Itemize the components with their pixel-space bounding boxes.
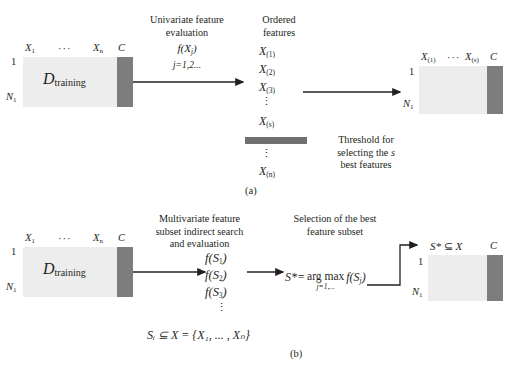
panel-a-output-matrix [419, 66, 503, 114]
panel-label-text: (b) [290, 348, 302, 359]
panel-a-output-row-last: N1 [403, 98, 414, 111]
caption-line-1: Selection of the best [272, 213, 398, 226]
eval-close: ) [222, 268, 226, 282]
panel-a-output-col-class: C [490, 51, 497, 62]
panel-a-col-label-last: Xn [93, 42, 103, 55]
eval-base: f(S [205, 285, 219, 299]
threshold-line-1: Threshold for [312, 134, 420, 147]
col-last-sub: (s) [471, 56, 478, 64]
ordered-vdots-lower: ⋮ [259, 150, 273, 157]
panel-b-col-label-dots: ··· [58, 233, 72, 244]
threshold-line-3: best features [312, 159, 420, 172]
argmax-lhs: S*= [285, 270, 305, 284]
panel-b-label: (b) [290, 348, 302, 359]
row-last-base: N [403, 98, 410, 109]
matrix-body [419, 66, 487, 114]
matrix-body [428, 255, 487, 301]
row-last-sub: 1 [410, 103, 414, 111]
argmax-rhs: f(Sj) [346, 270, 365, 288]
col-last-sub: n [99, 47, 103, 55]
ordered-feature-2: X(2) [259, 62, 275, 77]
feature-sub: (s) [266, 120, 274, 129]
feature-sub: (2) [266, 68, 275, 77]
matrix-class-column [117, 247, 133, 297]
feature-sub: (1) [266, 50, 275, 59]
panel-a-col-label-first: X1 [25, 42, 35, 55]
vdots-glyph: ⋮ [261, 95, 272, 107]
feature-sub: (n) [266, 170, 275, 179]
panel-a-col-label-class: C [118, 42, 125, 53]
row-last-base: N [6, 91, 13, 102]
subset-definition: Sᵢ ⊆ X = {X₁, ... , Xₙ} [147, 328, 250, 343]
output-label-subset: ⊆ [444, 240, 453, 252]
arrow-b-3 [367, 245, 417, 285]
ordered-feature-3: X(3) [259, 80, 275, 95]
ordered-line-1: Ordered [243, 14, 315, 27]
row-last-sub: 1 [13, 286, 17, 294]
panel-label-text: (a) [245, 185, 257, 196]
formula-close: ) [193, 42, 197, 54]
row-first: 1 [418, 256, 423, 267]
panel-a-label: (a) [245, 185, 257, 196]
ordered-line-2: features [243, 27, 315, 40]
panel-b-output-col-label: S* ⊆ X [430, 240, 462, 253]
panel-b-col-label-class: C [118, 232, 125, 243]
panel-b-output-col-class: C [490, 240, 497, 251]
eval-close: ) [222, 251, 226, 265]
ordered-vdots-upper: ⋮ [259, 98, 273, 105]
col-first-sub: 1 [31, 47, 35, 55]
dataset-symbol: D [43, 70, 55, 87]
eval-base: f(S [205, 268, 219, 282]
caption-line-2: evaluation [131, 27, 243, 40]
panel-a-output-row-first: 1 [409, 66, 414, 77]
panel-b-col-label-last: Xn [93, 232, 103, 245]
dataset-symbol: D [43, 260, 55, 277]
ordered-feature-s: X(s) [259, 114, 274, 129]
dataset-subscript: training [55, 77, 86, 88]
panel-a-output-col-dots: ··· [447, 52, 461, 63]
output-label-x: X [456, 240, 463, 252]
subset-eval-3: f(S3) [205, 285, 227, 300]
formula-base: f(X [177, 42, 190, 54]
threshold-line-2-italic: s [391, 147, 395, 158]
figure-canvas: Dtraining X1 ··· Xn C 1 N1 Univariate fe… [0, 0, 511, 382]
col-class: C [118, 232, 125, 243]
threshold-line-2-text: selecting the [337, 147, 391, 158]
col-first-sub: (1) [427, 56, 435, 64]
matrix-class-column [487, 255, 503, 301]
row-first: 1 [11, 56, 16, 67]
matrix-class-column [487, 66, 503, 114]
panel-b-output-row-first: 1 [418, 256, 423, 267]
ordered-feature-n: X(n) [259, 164, 275, 179]
vdots-glyph: ⋮ [216, 301, 227, 313]
index-text: j=1,2... [173, 60, 201, 70]
subset-eval-2: f(S2) [205, 268, 227, 283]
row-first: 1 [11, 246, 16, 257]
feature-sub: (3) [266, 86, 275, 95]
argmax-rhs-base: f(S [346, 270, 359, 284]
caption-line-2: feature subset [272, 226, 398, 239]
panel-a-ordered-caption: Ordered features [243, 14, 315, 39]
col-last-sub: n [99, 237, 103, 245]
panel-b-output-row-last: N1 [412, 286, 423, 299]
dataset-subscript: training [55, 267, 86, 278]
panel-b-col-label-first: X1 [25, 232, 35, 245]
panel-b-row-label-first: 1 [11, 246, 16, 257]
panel-b-output-matrix [428, 255, 503, 301]
col-class: C [490, 240, 497, 251]
row-last-sub: 1 [13, 96, 17, 104]
panel-a-step1-formula: f(Xj) [131, 42, 243, 56]
subset-eval-1: f(S1) [205, 251, 227, 266]
panel-a-step1-caption: Univariate feature evaluation [131, 14, 243, 39]
caption-line-1: Univariate feature [131, 14, 243, 27]
ordered-feature-1: X(1) [259, 44, 275, 59]
panel-b-step2-caption: Selection of the best feature subset [272, 213, 398, 238]
col-first-sub: 1 [31, 237, 35, 245]
row-last-base: N [6, 281, 13, 292]
panel-a-row-label-last: N1 [6, 91, 17, 104]
eval-close: ) [222, 285, 226, 299]
panel-a-dataset-name: Dtraining [43, 70, 86, 88]
panel-a-threshold-caption: Threshold for selecting the s best featu… [312, 134, 420, 172]
argmax-rhs-close: ) [362, 270, 366, 284]
subset-eval-vdots: ⋮ [214, 304, 228, 311]
